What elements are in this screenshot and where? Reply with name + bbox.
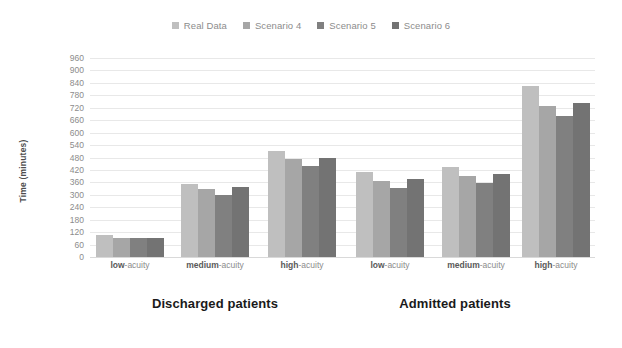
y-tick-label: 420 [70,165,84,175]
category-label-emphasis: low [370,260,384,270]
bar-2[interactable] [302,166,319,257]
bar-0[interactable] [442,167,459,257]
bar-2[interactable] [556,116,573,257]
bar-group [522,58,590,257]
y-tick-label: 900 [70,65,84,75]
y-tick-label: 300 [70,190,84,200]
bar-1[interactable] [539,106,556,257]
bar-0[interactable] [96,235,113,257]
category-label-rest: -acuity [219,260,244,270]
legend-swatch-icon [172,22,179,29]
y-tick-label: 240 [70,202,84,212]
category-label-emphasis: high [281,260,299,270]
legend-item-3[interactable]: Scenario 6 [392,20,450,31]
legend-label: Scenario 4 [255,20,301,31]
legend-item-2[interactable]: Scenario 5 [317,20,375,31]
legend-label: Scenario 5 [329,20,375,31]
category-label-rest: -acuity [385,260,410,270]
category-label-rest: -acuity [552,260,577,270]
legend-swatch-icon [392,22,399,29]
bar-2[interactable] [390,188,407,257]
bar-1[interactable] [459,176,476,257]
y-tick-label: 720 [70,103,84,113]
bar-group [442,58,510,257]
y-tick-label: 0 [79,252,84,262]
bar-group [268,58,336,257]
category-label: high-acuity [535,260,578,270]
legend-item-0[interactable]: Real Data [172,20,227,31]
category-label-emphasis: high [535,260,553,270]
bar-3[interactable] [319,158,336,258]
y-tick-label: 180 [70,215,84,225]
category-label-emphasis: medium [447,260,480,270]
plot-area: 9609008407807206606005404804203603002401… [90,58,595,257]
bar-2[interactable] [476,183,493,257]
y-tick-label: 660 [70,115,84,125]
category-label-rest: -acuity [125,260,150,270]
legend-label: Real Data [184,20,227,31]
bar-3[interactable] [493,174,510,257]
y-tick-label: 480 [70,153,84,163]
gridline: 0 [90,257,595,258]
bar-3[interactable] [573,103,590,257]
bar-1[interactable] [285,159,302,257]
bar-group [181,58,249,257]
category-label-emphasis: low [110,260,124,270]
y-tick-label: 120 [70,227,84,237]
y-tick-label: 840 [70,78,84,88]
category-label-rest: -acuity [298,260,323,270]
y-tick-label: 540 [70,140,84,150]
category-label-rest: -acuity [480,260,505,270]
bar-2[interactable] [215,195,232,257]
category-label: high-acuity [281,260,324,270]
category-label: medium-acuity [447,260,505,270]
category-label: medium-acuity [186,260,244,270]
bar-3[interactable] [407,179,424,257]
y-tick-label: 60 [75,240,84,250]
bar-0[interactable] [181,184,198,257]
bar-3[interactable] [232,187,249,257]
section-title-0: Discharged patients [152,296,278,311]
y-axis-title: Time (minutes) [18,116,28,226]
bar-1[interactable] [373,181,390,257]
bar-1[interactable] [113,238,130,257]
bar-group [356,58,424,257]
y-tick-label: 780 [70,90,84,100]
section-title-1: Admitted patients [399,296,510,311]
bar-chart: Real DataScenario 4Scenario 5Scenario 6 … [0,0,622,348]
bar-0[interactable] [356,172,373,257]
bar-0[interactable] [522,86,539,257]
y-tick-label: 600 [70,128,84,138]
category-label: low-acuity [370,260,409,270]
chart-legend: Real DataScenario 4Scenario 5Scenario 6 [0,20,622,31]
category-axis-labels: low-acuitymedium-acuityhigh-acuitylow-ac… [90,260,595,276]
bar-0[interactable] [268,151,285,257]
legend-item-1[interactable]: Scenario 4 [243,20,301,31]
category-label: low-acuity [110,260,149,270]
legend-swatch-icon [243,22,250,29]
bar-1[interactable] [198,189,215,257]
bar-3[interactable] [147,238,164,257]
legend-label: Scenario 6 [404,20,450,31]
bars-layer [90,58,595,257]
legend-swatch-icon [317,22,324,29]
bar-group [96,58,164,257]
y-tick-label: 960 [70,53,84,63]
bar-2[interactable] [130,238,147,257]
category-label-emphasis: medium [186,260,219,270]
y-tick-label: 360 [70,177,84,187]
